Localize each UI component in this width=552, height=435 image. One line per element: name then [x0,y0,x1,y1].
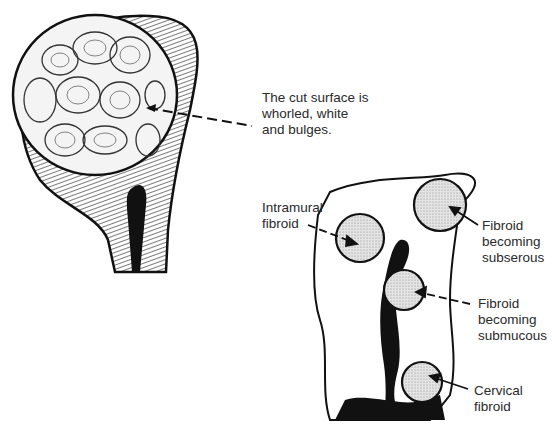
label-line: fibroid [262,216,323,232]
label-submucous-fibroid: Fibroid becoming submucous [478,296,547,344]
annotation-line: and bulges. [262,122,369,138]
label-line: Cervical [474,383,523,399]
label-subserous-fibroid: Fibroid becoming subserous [482,218,544,266]
right-uterus-drawing [308,174,478,420]
label-line: subserous [482,250,544,266]
label-cervical-fibroid: Cervical fibroid [474,383,523,415]
label-line: becoming [478,312,547,328]
label-line: submucous [478,328,547,344]
label-line: fibroid [474,399,523,415]
label-line: Fibroid [478,296,547,312]
left-uterus-drawing [13,15,252,272]
cut-surface-annotation: The cut surface is whorled, white and bu… [262,90,369,138]
label-line: Fibroid [482,218,544,234]
label-intramural-fibroid: Intramural fibroid [262,200,323,232]
annotation-line: The cut surface is [262,90,369,106]
annotation-line: whorled, white [262,106,369,122]
label-line: Intramural [262,200,323,216]
label-line: becoming [482,234,544,250]
